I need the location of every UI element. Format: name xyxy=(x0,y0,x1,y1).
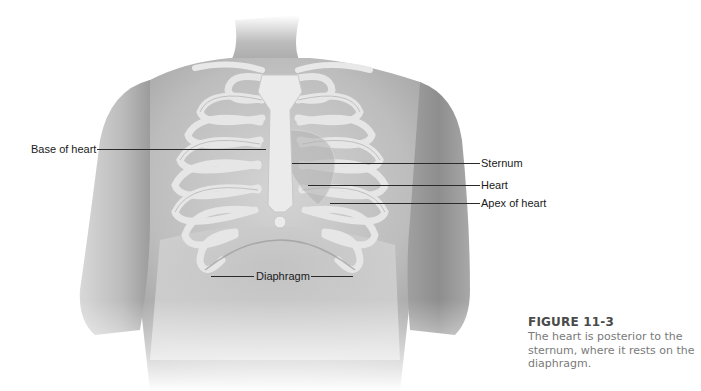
label-heart: Heart xyxy=(481,179,508,191)
leader-sternum xyxy=(292,163,480,164)
anatomy-figure: Base of heart Sternum Heart Apex of hear… xyxy=(0,0,701,391)
leader-apex-of-heart xyxy=(330,203,480,204)
leader-heart xyxy=(308,185,480,186)
label-base-of-heart: Base of heart xyxy=(31,143,96,155)
figure-caption: FIGURE 11-3 The heart is posterior to th… xyxy=(528,315,698,371)
label-diaphragm: Diaphragm xyxy=(256,270,310,282)
caption-text: The heart is posterior to the sternum, w… xyxy=(528,330,698,371)
leader-base-of-heart xyxy=(97,149,266,150)
arm-left xyxy=(80,80,150,335)
caption-title: FIGURE 11-3 xyxy=(528,315,698,329)
label-sternum: Sternum xyxy=(481,157,523,169)
leader-diaphragm-left xyxy=(211,276,254,277)
leader-diaphragm-right xyxy=(311,276,353,277)
label-apex-of-heart: Apex of heart xyxy=(481,197,546,209)
